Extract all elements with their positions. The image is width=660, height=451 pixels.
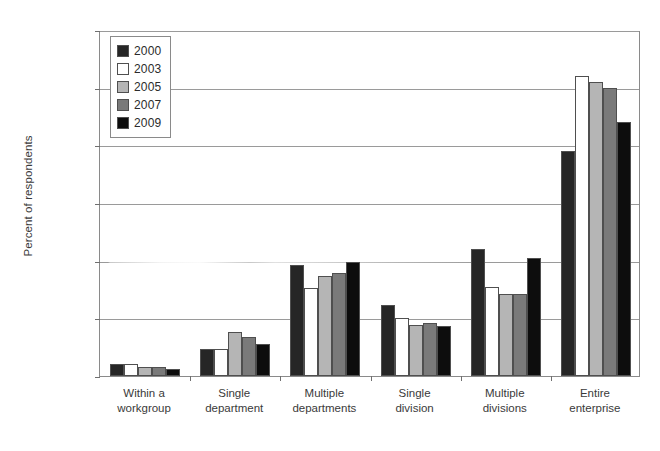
x-axis-category-label: Singledepartment: [189, 386, 279, 415]
bar: [381, 305, 395, 376]
bar: [499, 294, 513, 376]
legend-item: 2009: [117, 114, 162, 132]
x-tick-mark: [551, 376, 552, 381]
x-axis-category-label: Multipledepartments: [279, 386, 369, 415]
legend-swatch-icon: [117, 99, 129, 111]
bar: [318, 276, 332, 376]
legend-label: 2000: [134, 44, 162, 58]
bar: [124, 364, 138, 376]
bar-group: [461, 32, 551, 376]
chart-legend: 20002003200520072009: [110, 36, 171, 138]
legend-item: 2003: [117, 60, 162, 78]
legend-swatch-icon: [117, 117, 129, 129]
bar: [423, 323, 437, 376]
x-axis-category-label: Multipledivisions: [460, 386, 550, 415]
bar: [617, 122, 631, 376]
legend-item: 2000: [117, 42, 162, 60]
bar: [200, 349, 214, 376]
bar-group: [280, 32, 370, 376]
legend-label: 2007: [134, 98, 162, 112]
legend-label: 2003: [134, 62, 162, 76]
legend-item: 2005: [117, 78, 162, 96]
bar: [603, 88, 617, 376]
bar: [409, 325, 423, 376]
bar: [437, 326, 451, 376]
bar-chart: Percent of respondents 0%10%20%30%40%50%…: [0, 0, 660, 451]
bar: [228, 332, 242, 376]
bar: [513, 294, 527, 376]
bar: [304, 288, 318, 376]
legend-swatch-icon: [117, 45, 129, 57]
legend-label: 2009: [134, 116, 162, 130]
y-axis-title: Percent of respondents: [22, 111, 34, 281]
x-tick-mark: [371, 376, 372, 381]
legend-label: 2005: [134, 80, 162, 94]
y-tick-mark: [95, 377, 100, 378]
bar-group: [190, 32, 280, 376]
bar: [214, 349, 228, 376]
x-axis-category-label: Within aworkgroup: [99, 386, 189, 415]
bar: [485, 287, 499, 376]
legend-item: 2007: [117, 96, 162, 114]
bar: [332, 273, 346, 376]
bar: [152, 367, 166, 376]
x-tick-mark: [280, 376, 281, 381]
bar-group: [551, 32, 641, 376]
x-axis-category-label: Singledivision: [370, 386, 460, 415]
bar: [527, 258, 541, 376]
plot-area: 0%10%20%30%40%50%60%: [99, 31, 640, 377]
x-axis-category-label: Entireenterprise: [550, 386, 640, 415]
bar: [561, 151, 575, 376]
bar: [256, 344, 270, 376]
bar: [346, 262, 360, 376]
x-tick-mark: [461, 376, 462, 381]
bar: [242, 337, 256, 376]
bar-group: [371, 32, 461, 376]
bar: [110, 364, 124, 376]
bar: [138, 367, 152, 376]
bar: [290, 265, 304, 376]
bar: [471, 249, 485, 376]
bar: [395, 318, 409, 376]
bar: [166, 369, 180, 376]
legend-swatch-icon: [117, 63, 129, 75]
x-tick-mark: [190, 376, 191, 381]
bar: [589, 82, 603, 376]
legend-swatch-icon: [117, 81, 129, 93]
bar: [575, 76, 589, 376]
